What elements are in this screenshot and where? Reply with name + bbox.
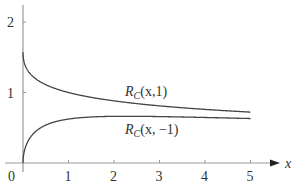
curves [23,52,251,163]
x-axis-label: x [284,156,292,171]
x-tick-label: 0 [8,169,15,184]
x-tick-label: 4 [201,169,208,184]
y-tick-label: 2 [7,15,14,30]
x-tick-label: 1 [65,169,72,184]
svg-text:RC(x, −1): RC(x, −1) [124,122,179,139]
x-tick-label: 5 [247,169,254,184]
svg-text:RC(x,1): RC(x,1) [124,84,167,101]
x-tick-label: 2 [110,169,117,184]
curve-label-lower: RC(x, −1) [124,122,179,139]
curve-label-upper: RC(x,1) [124,84,167,101]
curve-rc-x-1 [23,52,251,112]
chart: x 01234512 RC(x,1) RC(x, −1) [0,0,298,186]
y-tick-label: 1 [7,86,14,101]
x-axis-arrow-icon [270,160,280,167]
x-tick-label: 3 [156,169,163,184]
curve-rc-x-neg1 [23,116,251,163]
ticks: 01234512 [7,15,254,184]
